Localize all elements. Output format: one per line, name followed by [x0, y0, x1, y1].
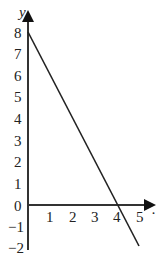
- line-chart: y 8 7 6 5 4 3 2 1 0 −1 −2 1 2 3 4 5 .: [0, 0, 158, 269]
- y-tick-label: 3: [14, 133, 22, 149]
- x-tick-label: 3: [91, 209, 99, 225]
- y-tick-label: 8: [14, 25, 22, 41]
- y-tick-label: 4: [14, 111, 22, 127]
- x-tick-label: 2: [69, 209, 77, 225]
- x-tick-labels: 1 2 3 4 5: [46, 209, 144, 225]
- y-axis: [22, 10, 34, 250]
- x-tick-label: 4: [113, 209, 121, 225]
- y-tick-label: 0: [14, 198, 22, 214]
- y-tick-label: 5: [14, 89, 22, 105]
- x-tick-label: 5: [136, 209, 144, 225]
- y-tick-label: −1: [8, 219, 24, 235]
- x-tick-label: 1: [46, 209, 54, 225]
- y-tick-label: 1: [14, 176, 22, 192]
- y-tick-labels: 8 7 6 5 4 3 2 1 0 −1 −2: [8, 25, 24, 256]
- y-tick-label: −2: [8, 240, 24, 256]
- y-tick-label: 6: [14, 68, 22, 84]
- y-tick-label: 7: [14, 46, 22, 62]
- y-tick-label: 2: [14, 154, 22, 170]
- data-line: [28, 32, 139, 246]
- y-axis-label: y: [17, 4, 26, 20]
- x-axis-label: .: [152, 201, 156, 217]
